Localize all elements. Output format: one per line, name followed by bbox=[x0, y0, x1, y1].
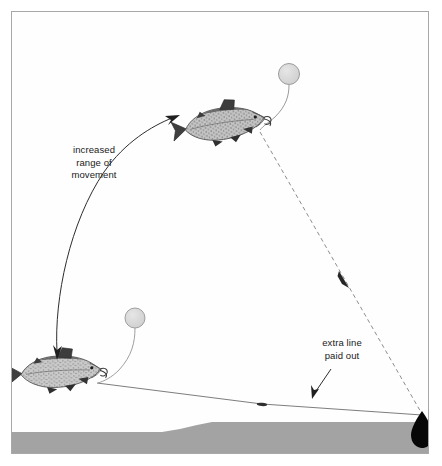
label-increased-range-of-movement: increased range of movement bbox=[40, 144, 148, 182]
extra-line-pointer-arrow bbox=[311, 369, 331, 399]
upper-fish bbox=[169, 93, 274, 153]
seabed bbox=[12, 422, 428, 453]
upper-float bbox=[279, 64, 300, 85]
split-shot-bead bbox=[257, 402, 268, 406]
diagram-canvas bbox=[12, 12, 428, 453]
dashed-line-to-sinker bbox=[260, 132, 422, 414]
figure-container: increased range of movement extra line p… bbox=[0, 0, 442, 466]
line-direction-arrow bbox=[338, 271, 350, 288]
lower-float-assembly bbox=[98, 308, 145, 383]
diagram-frame: increased range of movement extra line p… bbox=[11, 11, 429, 454]
fishing-line-horizontal bbox=[97, 383, 422, 415]
lower-fish bbox=[12, 345, 109, 397]
lower-float bbox=[125, 308, 145, 328]
sinker-weight bbox=[411, 411, 428, 448]
upper-float-assembly bbox=[260, 64, 300, 131]
label-extra-line-paid-out: extra line paid out bbox=[296, 337, 388, 362]
